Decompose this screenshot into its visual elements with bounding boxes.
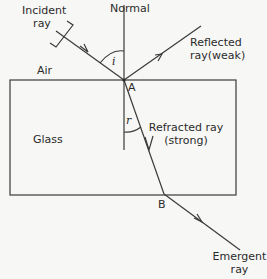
angle-r-arc <box>124 127 141 132</box>
normal-label: Normal <box>110 2 150 15</box>
emergent-label-line2: ray <box>212 263 267 276</box>
point-a-label: A <box>128 81 136 94</box>
reflected-ray-label: Reflected ray(weak) <box>190 36 245 62</box>
reflected-label-line1: Reflected <box>190 36 245 49</box>
point-a-dot <box>122 78 125 81</box>
refracted-label-line1: Refracted ray <box>146 121 226 134</box>
incident-ray-label: Incident ray <box>22 4 62 30</box>
angle-i-label: i <box>112 55 116 68</box>
incident-label-line1: Incident <box>22 4 62 17</box>
point-b-label: B <box>158 198 166 211</box>
emergent-label-line1: Emergent <box>212 250 267 263</box>
glass-label: Glass <box>33 133 63 146</box>
incident-label-line2: ray <box>22 17 62 30</box>
air-label: Air <box>37 64 52 77</box>
refracted-ray-label: Refracted ray (strong) <box>146 121 226 147</box>
emergent-arrow-icon <box>194 214 202 222</box>
refracted-label-line2: (strong) <box>146 134 226 147</box>
reflected-label-line2: ray(weak) <box>190 49 245 62</box>
angle-r-label: r <box>126 114 131 127</box>
emergent-ray-label: Emergent ray <box>212 250 267 276</box>
